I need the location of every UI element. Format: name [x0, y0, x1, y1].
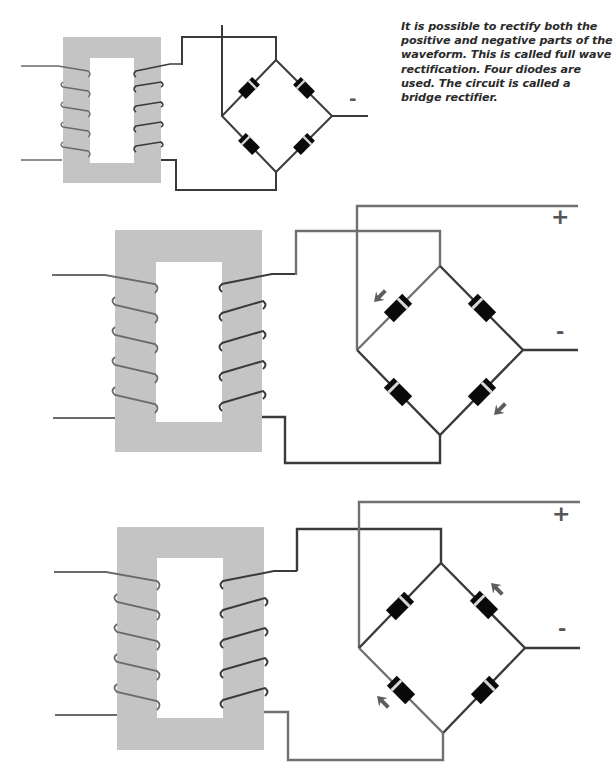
- current-arrow-icon: [490, 399, 510, 419]
- diagram-middle: [52, 206, 578, 463]
- plus-label: +: [552, 501, 570, 526]
- minus-label: -: [556, 319, 564, 343]
- transformer-core: [115, 230, 262, 452]
- circuit-wires: [161, 25, 368, 190]
- circuit-wires: [264, 502, 580, 760]
- diagram-top: [21, 25, 368, 190]
- plus-label: +: [551, 204, 569, 229]
- transformer-core: [117, 527, 264, 750]
- current-arrow-icon: [487, 579, 507, 599]
- current-arrow-icon: [370, 286, 390, 306]
- diagram-bottom: [54, 502, 580, 760]
- circuit-wires: [262, 206, 578, 463]
- minus-label: -: [558, 616, 566, 640]
- minus-label: -: [349, 88, 356, 109]
- current-arrow-icon: [373, 692, 393, 712]
